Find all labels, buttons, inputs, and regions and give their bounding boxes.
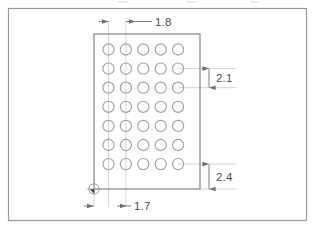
dimension-label-bottom-offset: 2.4 xyxy=(216,171,233,183)
dimension-label-column-pitch: 1.8 xyxy=(155,16,172,28)
technical-drawing-canvas: 1.8 2.1 2.4 1.7 xyxy=(0,0,315,230)
dimension-label-row-pitch: 2.1 xyxy=(216,72,233,84)
drawing-sheet: 1.8 2.1 2.4 1.7 xyxy=(0,0,315,230)
dimension-label-left-offset: 1.7 xyxy=(134,200,151,212)
